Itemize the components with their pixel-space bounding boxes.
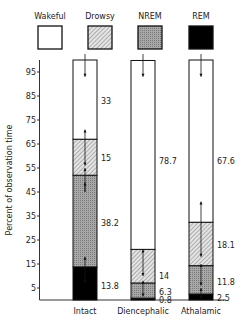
legend-swatch xyxy=(88,26,112,49)
legend-label: Drowsy xyxy=(85,12,115,21)
value-label-drowsy: 15 xyxy=(101,154,111,163)
stacked-bar-chart: WakefulDrowsyNREMREM 5152535455565758595… xyxy=(0,0,246,326)
value-label-rem: 13.8 xyxy=(101,282,119,291)
legend-label: Wakeful xyxy=(34,12,66,21)
y-tick-label: 35 xyxy=(26,212,36,221)
y-tick-label: 65 xyxy=(26,140,36,149)
bar-diencephalic: 0.86.31478.7Diencephalic xyxy=(117,54,177,316)
value-label-wakeful: 33 xyxy=(101,97,111,106)
value-label-rem: 2.5 xyxy=(217,294,230,303)
value-label-drowsy: 18.1 xyxy=(217,241,235,250)
legend-item-drowsy: Drowsy xyxy=(85,12,115,49)
bar-athalamic: 2.511.818.167.6Athalamic xyxy=(181,54,235,316)
bar-segment-wakeful xyxy=(131,60,155,249)
y-tick-label: 95 xyxy=(26,68,36,77)
bar-segment-wakeful xyxy=(189,60,213,222)
legend-label: NREM xyxy=(138,12,162,21)
legend-item-wakeful: Wakeful xyxy=(34,12,66,49)
value-label-nrem: 6.3 xyxy=(159,288,172,297)
category-label: Diencephalic xyxy=(117,307,169,316)
y-axis-label: Percent of observation time xyxy=(5,125,14,236)
legend-swatch xyxy=(138,26,162,49)
category-label: Intact xyxy=(73,307,96,316)
legend-item-nrem: NREM xyxy=(138,12,162,49)
value-label-wakeful: 67.6 xyxy=(217,157,235,166)
y-tick-label: 15 xyxy=(26,260,36,269)
y-tick-label: 45 xyxy=(26,188,36,197)
legend-item-rem: REM xyxy=(189,12,213,49)
value-label-wakeful: 78.7 xyxy=(159,157,177,166)
y-tick-label: 75 xyxy=(26,116,36,125)
bars: 13.838.21533Intact0.86.31478.7Diencephal… xyxy=(73,54,235,316)
legend: WakefulDrowsyNREMREM xyxy=(34,12,213,49)
value-label-nrem: 38.2 xyxy=(101,219,119,228)
y-tick-label: 85 xyxy=(26,92,36,101)
legend-label: REM xyxy=(192,12,210,21)
value-label-rem: 0.8 xyxy=(159,296,172,305)
category-label: Athalamic xyxy=(181,307,221,316)
legend-swatch xyxy=(189,26,213,49)
value-label-nrem: 11.8 xyxy=(217,278,235,287)
y-tick-label: 5 xyxy=(31,284,36,293)
bar-intact: 13.838.21533Intact xyxy=(73,54,119,316)
y-tick-label: 55 xyxy=(26,164,36,173)
legend-swatch xyxy=(38,26,62,49)
value-label-drowsy: 14 xyxy=(159,272,169,281)
y-tick-label: 25 xyxy=(26,236,36,245)
